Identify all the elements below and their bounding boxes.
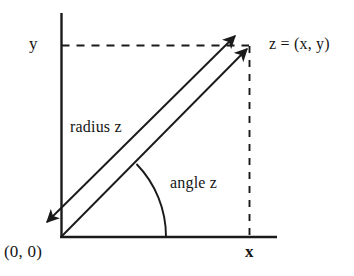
x-axis-label: x — [245, 243, 254, 260]
angle-arc — [137, 164, 167, 237]
position-vector-ray — [62, 49, 247, 236]
origin-label: (0, 0) — [4, 243, 42, 260]
angle-label: angle z — [170, 175, 217, 191]
y-axis-label: y — [29, 35, 38, 52]
polar-coordinate-diagram: y x (0, 0) z = (x, y) radius z angle z — [0, 0, 354, 276]
radius-label: radius z — [70, 119, 122, 135]
point-z-label: z = (x, y) — [269, 36, 330, 52]
